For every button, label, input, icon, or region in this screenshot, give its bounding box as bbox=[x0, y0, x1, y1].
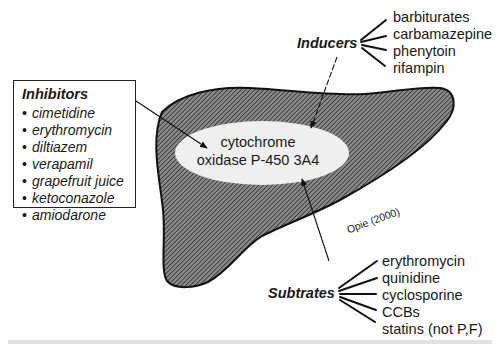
substrate-item: quinidine bbox=[382, 271, 440, 286]
inhibitor-item: •amiodarone bbox=[22, 207, 106, 223]
inducer-item: barbiturates bbox=[393, 10, 470, 25]
bullet-icon: • bbox=[22, 139, 32, 155]
bullet-icon: • bbox=[22, 207, 32, 223]
inhibitors-heading: Inhibitors bbox=[22, 87, 88, 102]
substrates-heading: Subtrates bbox=[268, 286, 335, 301]
bullet-icon: • bbox=[22, 122, 32, 138]
bottom-divider bbox=[8, 340, 492, 344]
diagram-canvas: Inhibitors •cimetidine •erythromycin •di… bbox=[0, 0, 500, 352]
bullet-icon: • bbox=[22, 105, 32, 121]
inhibitor-item: •verapamil bbox=[22, 156, 93, 172]
inhibitor-item: •erythromycin bbox=[22, 122, 112, 138]
inhibitor-item: •cimetidine bbox=[22, 105, 95, 121]
inhibitors-box: Inhibitors •cimetidine •erythromycin •di… bbox=[13, 80, 136, 208]
inducers-heading: Inducers bbox=[297, 36, 357, 51]
substrate-item: statins (not P,F) bbox=[382, 322, 482, 337]
bullet-icon: • bbox=[22, 156, 32, 172]
inducer-item: carbamazepine bbox=[393, 27, 492, 42]
bullet-icon: • bbox=[22, 190, 32, 206]
inhibitor-item: •ketoconazole bbox=[22, 190, 115, 206]
substrate-item: erythromycin bbox=[382, 254, 465, 269]
substrate-item: CCBs bbox=[382, 305, 420, 320]
inducer-item: rifampin bbox=[393, 61, 445, 76]
enzyme-label-line1: cytochrome bbox=[221, 134, 296, 150]
inducers-fan bbox=[361, 20, 386, 66]
substrates-fan bbox=[339, 261, 377, 322]
inducer-item: phenytoin bbox=[393, 44, 456, 59]
substrate-item: cyclosporine bbox=[382, 288, 463, 303]
bullet-icon: • bbox=[22, 173, 32, 189]
inhibitor-item: •diltiazem bbox=[22, 139, 87, 155]
enzyme-label-line2: oxidase P-450 3A4 bbox=[197, 152, 320, 168]
inhibitor-item: •grapefruit juice bbox=[22, 173, 124, 189]
